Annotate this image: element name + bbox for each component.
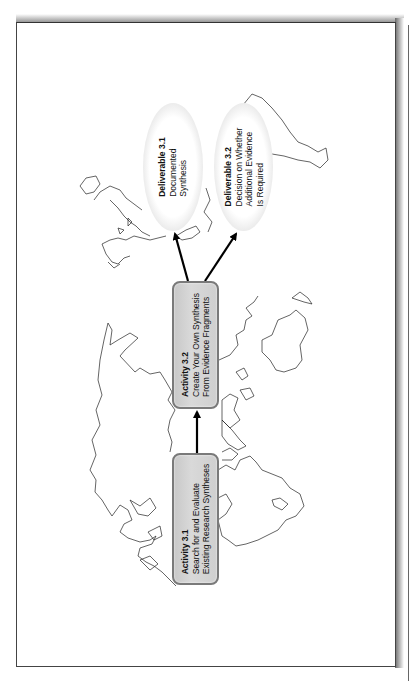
activity-3-1-text: Activity 3.1 Search for and Evaluate Exi… — [180, 464, 212, 575]
arrow-activity-3-2-to-deliverable-3-1 — [175, 234, 188, 281]
activity-3-1-line: Existing Research Syntheses — [201, 464, 212, 575]
deliverable-3-1-ellipse: Deliverable 3.1 Documented Synthesis — [143, 103, 203, 231]
deliverable-3-1-title: Deliverable 3.1 — [157, 137, 168, 197]
activity-3-2-line: Create Your Own Synthesis — [190, 293, 201, 397]
activity-3-1-box: Activity 3.1 Search for and Evaluate Exi… — [172, 453, 219, 585]
deliverable-3-2-line: Is Required — [254, 128, 265, 207]
activity-3-2-title: Activity 3.2 — [180, 293, 191, 397]
deliverable-3-1-line: Synthesis — [178, 137, 189, 197]
arrow-activity-3-2-to-deliverable-3-2 — [205, 234, 236, 281]
deliverable-3-2-title: Deliverable 3.2 — [223, 128, 234, 207]
deliverable-3-2-line: Decision on Whether — [233, 128, 244, 207]
activity-3-2-line: From Evidence Fragments — [201, 293, 212, 397]
deliverable-3-2-ellipse: Deliverable 3.2 Decision on Whether Addi… — [214, 103, 273, 231]
activity-3-1-title: Activity 3.1 — [180, 464, 191, 575]
deliverable-3-1-line: Documented — [168, 137, 179, 197]
activity-3-2-box: Activity 3.2 Create Your Own Synthesis F… — [172, 281, 219, 409]
activity-3-1-line: Search for and Evaluate — [190, 464, 201, 575]
deliverable-3-2-text: Deliverable 3.2 Decision on Whether Addi… — [223, 128, 265, 207]
deliverable-3-1-text: Deliverable 3.1 Documented Synthesis — [157, 137, 189, 197]
deliverable-3-2-line: Additional Evidence — [244, 128, 255, 207]
activity-3-2-text: Activity 3.2 Create Your Own Synthesis F… — [180, 293, 212, 397]
